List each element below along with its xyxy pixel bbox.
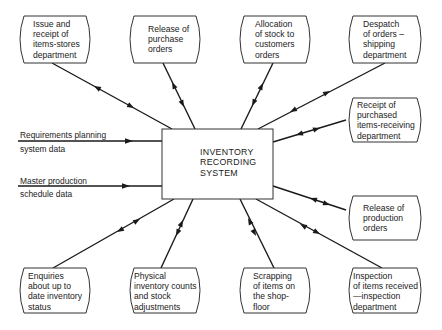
arrow-icon	[179, 100, 187, 109]
node-label-enquiries: Enquiries about up to date inventory sta…	[28, 271, 82, 312]
arrow-icon	[93, 84, 102, 92]
input-label-master-line2: schedule data	[20, 189, 72, 199]
arrow-icon	[122, 183, 130, 189]
input-label-requirements-line1: Requirements planning	[20, 130, 106, 140]
input-label-master-line1: Master production	[20, 176, 87, 186]
edge-release-purchase	[163, 63, 195, 129]
edge-enquiries	[53, 199, 174, 268]
arrow-icon	[258, 82, 266, 91]
node-label-issue-receipt: Issue and receipt of items-stores depart…	[33, 19, 80, 60]
arrow-icon	[250, 99, 258, 108]
edge-scrapping	[240, 199, 274, 268]
edge-issue-receipt	[52, 63, 172, 129]
edge-receipt-purchased	[273, 120, 346, 142]
node-label-release-purchase: Release of purchase orders	[148, 24, 189, 55]
edge-allocation-stock	[241, 63, 273, 129]
node-label-release-production: Release of production orders	[363, 203, 404, 234]
node-label-physical-counts: Physical inventory counts and stock adju…	[134, 271, 197, 312]
input-label-requirements-line2: system data	[20, 144, 65, 154]
arrow-icon	[125, 138, 133, 144]
arrow-icon	[313, 228, 322, 236]
node-label-inspection: Inspection of items received —inspection…	[353, 271, 418, 312]
arrow-icon	[127, 102, 136, 110]
arrow-icon	[170, 81, 178, 90]
center-label: INVENTORY RECORDING SYSTEM	[200, 147, 256, 178]
arrow-icon	[178, 219, 186, 228]
node-label-despatch-orders: Despatch of orders – shipping department	[363, 19, 406, 60]
node-label-receipt-purchased: Receipt of purchased items-receiving dep…	[357, 100, 415, 141]
arrow-icon	[174, 229, 182, 238]
node-label-allocation-stock: Allocation of stock to customers orders	[255, 19, 295, 60]
arrow-icon	[309, 196, 317, 203]
node-label-scrapping: Scrapping of items on the shop- floor	[253, 271, 295, 312]
arrow-icon	[313, 126, 321, 133]
arrow-icon	[295, 130, 303, 137]
